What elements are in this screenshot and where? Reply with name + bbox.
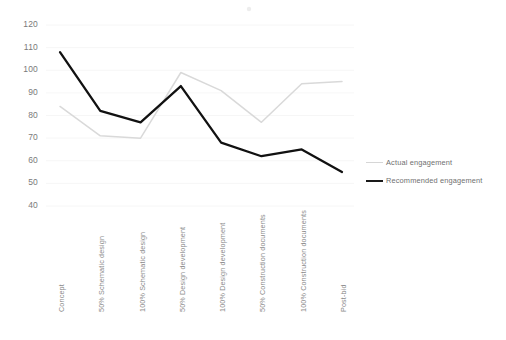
y-axis-tick: 70 — [12, 132, 38, 142]
line-chart: 405060708090100110120 Concept50% Schemat… — [0, 0, 506, 340]
x-axis-tick: 50% Construction documents — [258, 214, 267, 312]
y-axis-tick: 90 — [12, 87, 38, 97]
x-axis-tick: Post-bid — [339, 284, 348, 312]
legend-item-actual-engagement: Actual engagement — [366, 155, 506, 170]
gridlines — [46, 25, 354, 206]
y-axis-tick: 120 — [12, 19, 38, 29]
y-axis-tick: 80 — [12, 110, 38, 120]
x-axis-tick: 100% Design development — [218, 223, 227, 312]
y-axis-tick: 50 — [12, 177, 38, 187]
legend-item-recommended-engagement: Recommended engagement — [366, 173, 506, 188]
y-axis-tick: 100 — [12, 64, 38, 74]
legend-line-swatch-actual-icon — [366, 162, 383, 163]
x-axis-tick: Concept — [57, 284, 66, 312]
scan-artifact-speck — [247, 7, 251, 11]
series-line-actual-engagement — [60, 73, 342, 139]
y-axis-tick: 60 — [12, 155, 38, 165]
y-axis-tick: 110 — [12, 42, 38, 52]
legend-label-actual: Actual engagement — [386, 158, 452, 167]
legend-line-swatch-recommended-icon — [366, 180, 383, 182]
x-axis-tick: 50% Design development — [178, 227, 187, 312]
x-axis-tick: 100% Construction documents — [299, 210, 308, 312]
x-axis-tick: 100% Schematic design — [138, 232, 147, 312]
chart-legend: Actual engagement Recommended engagement — [366, 155, 506, 191]
x-axis-tick: 50% Schematic design — [97, 236, 106, 312]
y-axis-tick: 40 — [12, 200, 38, 210]
legend-label-recommended: Recommended engagement — [386, 176, 483, 185]
